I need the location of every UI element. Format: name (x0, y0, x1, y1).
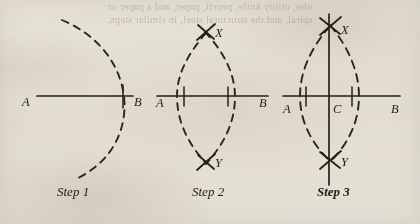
step-3-label-x: X (340, 23, 350, 37)
step-3-label-c: C (333, 102, 342, 116)
step-1-arc-from-a (62, 20, 125, 179)
step-2-group: A B X Y (155, 24, 268, 170)
step-1-group: A B (21, 20, 142, 179)
step-1-label-a: A (21, 95, 30, 109)
step-2-label-x: X (214, 26, 224, 40)
step-3-cross-x (320, 17, 341, 35)
step-2-label-y: Y (215, 156, 224, 170)
step-3-label-y: Y (341, 155, 350, 169)
step-2-arc-from-a (177, 33, 206, 163)
figure-page: uler, utility knife, pencil, paper, and … (0, 0, 420, 224)
step-2-arc-from-b (205, 32, 235, 164)
step-3-label-b: B (391, 102, 399, 116)
step-2-cross-y (197, 154, 215, 170)
caption-step-2: Step 2 (192, 184, 224, 200)
step-2-label-b: B (259, 96, 267, 110)
step-3-cross-y (320, 151, 341, 169)
step-3-group: A B C X Y (282, 14, 400, 185)
step-3-arc-from-b (330, 25, 359, 162)
step-3-arc-from-a (300, 26, 330, 161)
caption-step-3: Step 3 (317, 184, 350, 200)
caption-step-1: Step 1 (57, 184, 89, 200)
step-1-label-b: B (134, 95, 142, 109)
step-2-cross-x (197, 24, 215, 40)
step-3-label-a: A (282, 102, 291, 116)
step-2-label-a: A (155, 96, 164, 110)
